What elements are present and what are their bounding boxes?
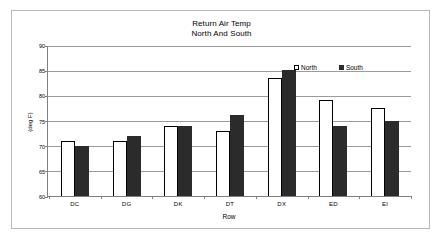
y-tick-label: 65	[39, 169, 45, 175]
bar-south-DG	[127, 136, 141, 196]
bar-north-DK	[164, 126, 178, 196]
bar-group: DG	[101, 46, 153, 196]
y-tick-label: 60	[39, 194, 45, 200]
y-tick-label: 80	[39, 93, 45, 99]
x-tick-mark	[308, 196, 309, 199]
x-axis-title: Row	[47, 213, 411, 220]
bar-group: DK	[152, 46, 204, 196]
x-tick-mark	[411, 196, 412, 199]
bar-north-DT	[216, 131, 230, 196]
bar-group: DT	[204, 46, 256, 196]
chart-title-line1: Return Air Temp	[192, 19, 251, 28]
chart-title: Return Air Temp North And South	[12, 19, 431, 39]
y-tick-label: 75	[39, 119, 45, 125]
legend-label-north: North	[301, 64, 317, 71]
y-tick-mark	[45, 121, 48, 122]
bar-north-ED	[319, 100, 333, 196]
x-tick-mark	[101, 196, 102, 199]
bar-south-ED	[333, 126, 347, 196]
legend-entry-north: North	[294, 64, 317, 71]
x-tick-label-EI: EI	[359, 201, 411, 207]
y-tick-mark	[45, 197, 48, 198]
legend-swatch-north-icon	[294, 65, 299, 70]
x-tick-label-DX: DX	[256, 201, 308, 207]
bar-south-DT	[230, 115, 244, 196]
y-tick-mark	[45, 171, 48, 172]
chart-screenshot: Return Air Temp North And South (deg F) …	[0, 0, 447, 245]
bar-south-DK	[178, 126, 192, 196]
chart-frame: Return Air Temp North And South (deg F) …	[11, 10, 430, 229]
x-tick-label-DC: DC	[49, 201, 101, 207]
bar-group: EI	[359, 46, 411, 196]
bar-north-DC	[61, 141, 75, 196]
x-tick-label-ED: ED	[308, 201, 360, 207]
y-axis-title: (deg F)	[25, 46, 35, 197]
x-tick-label-DG: DG	[101, 201, 153, 207]
x-tick-mark	[256, 196, 257, 199]
x-tick-mark	[49, 196, 50, 199]
bar-north-DG	[113, 141, 127, 196]
bar-south-EI	[385, 121, 399, 197]
bar-group: DC	[49, 46, 101, 196]
chart-legend: North South	[294, 64, 363, 71]
x-tick-label-DT: DT	[204, 201, 256, 207]
bar-south-DX	[282, 70, 296, 196]
legend-label-south: South	[346, 64, 363, 71]
x-tick-label-DK: DK	[152, 201, 204, 207]
y-tick-mark	[45, 71, 48, 72]
plot-area: 60657075808590 DCDGDKDTDXEDEI North Sout…	[47, 46, 411, 197]
y-tick-label: 85	[39, 68, 45, 74]
y-tick-mark	[45, 46, 48, 47]
y-tick-label: 90	[39, 43, 45, 49]
bar-north-EI	[371, 108, 385, 196]
y-tick-mark	[45, 146, 48, 147]
bar-north-DX	[268, 78, 282, 196]
bar-south-DC	[75, 146, 89, 196]
x-tick-mark	[359, 196, 360, 199]
x-tick-mark	[204, 196, 205, 199]
y-tick-label: 70	[39, 144, 45, 150]
legend-swatch-south-icon	[339, 65, 344, 70]
legend-entry-south: South	[339, 64, 363, 71]
y-tick-mark	[45, 96, 48, 97]
x-tick-mark	[152, 196, 153, 199]
chart-title-line2: North And South	[12, 29, 431, 39]
